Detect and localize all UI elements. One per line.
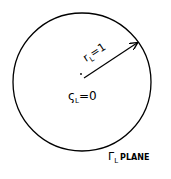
center-label: ςL=0 bbox=[68, 89, 97, 105]
gamma-plane-diagram: rL=1 ςL=0 ΓLPLANE bbox=[0, 0, 171, 179]
radius-label: rL=1 bbox=[81, 40, 110, 66]
plane-label-sub: L bbox=[114, 157, 118, 165]
center-label-eq: =0 bbox=[79, 89, 97, 103]
svg-text:ΓLPLANE: ΓLPLANE bbox=[108, 150, 149, 165]
center-point bbox=[80, 73, 82, 75]
plane-label-text: PLANE bbox=[120, 153, 149, 162]
svg-text:ςL=0: ςL=0 bbox=[68, 89, 97, 105]
plane-label: ΓLPLANE bbox=[108, 150, 149, 165]
center-label-symbol: ς bbox=[68, 89, 75, 103]
unit-circle bbox=[13, 13, 151, 151]
svg-text:rL=1: rL=1 bbox=[81, 40, 110, 66]
